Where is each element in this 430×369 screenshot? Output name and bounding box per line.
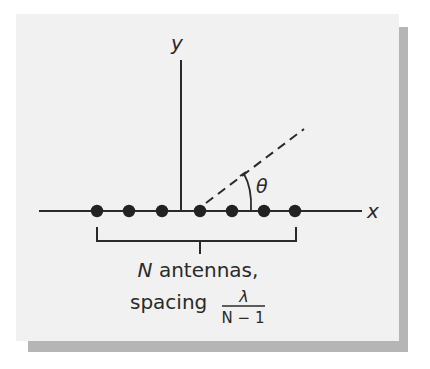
angle-theta-label: θ bbox=[256, 175, 268, 197]
caption-spacing-text: spacing bbox=[130, 290, 207, 314]
y-axis-label: y bbox=[170, 31, 184, 55]
caption-line-1: N antennas, bbox=[138, 258, 259, 282]
antenna-dot bbox=[91, 205, 103, 217]
antenna-dot bbox=[289, 205, 301, 217]
antenna-dot bbox=[194, 205, 206, 217]
caption-n-variable: N bbox=[138, 258, 153, 282]
fraction-denominator: N − 1 bbox=[222, 309, 265, 327]
antenna-dot bbox=[123, 205, 135, 217]
angle-arc bbox=[244, 174, 251, 210]
array-bracket bbox=[97, 227, 296, 241]
antenna-dot bbox=[226, 205, 238, 217]
antenna-array-diagram: y x θ N antennas, spacing λ N − 1 bbox=[0, 0, 430, 369]
fraction-numerator-lambda: λ bbox=[238, 287, 248, 306]
direction-dashed-line bbox=[206, 129, 304, 203]
antenna-dot bbox=[156, 205, 168, 217]
caption-antennas-text: antennas, bbox=[153, 258, 259, 282]
antenna-dot bbox=[258, 205, 270, 217]
x-axis-label: x bbox=[366, 199, 379, 223]
